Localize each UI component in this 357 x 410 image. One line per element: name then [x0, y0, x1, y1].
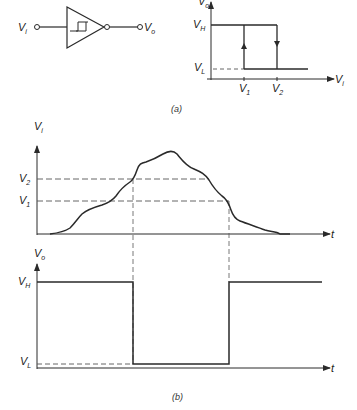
caption-b: (b): [172, 392, 183, 402]
output-waveform-plot: Vo t VH VL: [18, 247, 335, 374]
vl-label: VL: [194, 61, 205, 75]
output-signal-square-wave: [37, 282, 322, 364]
input-waveform-plot: Vi t V2 V1: [19, 120, 335, 364]
vh-level-label: VH: [18, 275, 31, 289]
transfer-characteristic-plot: Vo Vi VH VL V1 V2: [193, 0, 344, 96]
vi-axis-label-b: Vi: [34, 120, 43, 134]
output-terminal-icon: [138, 25, 143, 30]
v2-level-label: V2: [19, 172, 30, 186]
vo-axis-label: Vo: [198, 0, 209, 9]
vh-label: VH: [193, 18, 206, 32]
schmitt-trigger-symbol: Vi Vo: [18, 7, 155, 48]
input-signal-curve: [50, 151, 290, 234]
t-axis-label-input: t: [331, 228, 335, 240]
schmitt-trigger-figure: Vi Vo Vo Vi VH VL V1 V2 (a): [0, 0, 357, 410]
arrow-down-icon: [274, 41, 280, 47]
input-label: Vi: [18, 21, 27, 35]
v2-label: V2: [272, 82, 283, 96]
inverter-bubble-icon: [105, 25, 110, 30]
input-terminal-icon: [35, 25, 40, 30]
caption-a: (a): [171, 104, 182, 114]
vl-level-label: VL: [20, 355, 31, 369]
output-label: Vo: [144, 21, 155, 35]
vi-axis-label: Vi: [335, 73, 344, 87]
v1-label: V1: [239, 82, 250, 96]
v1-level-label: V1: [19, 194, 30, 208]
arrow-up-icon: [241, 43, 247, 49]
vo-axis-label-b: Vo: [34, 247, 45, 261]
t-axis-label-output: t: [331, 362, 335, 374]
